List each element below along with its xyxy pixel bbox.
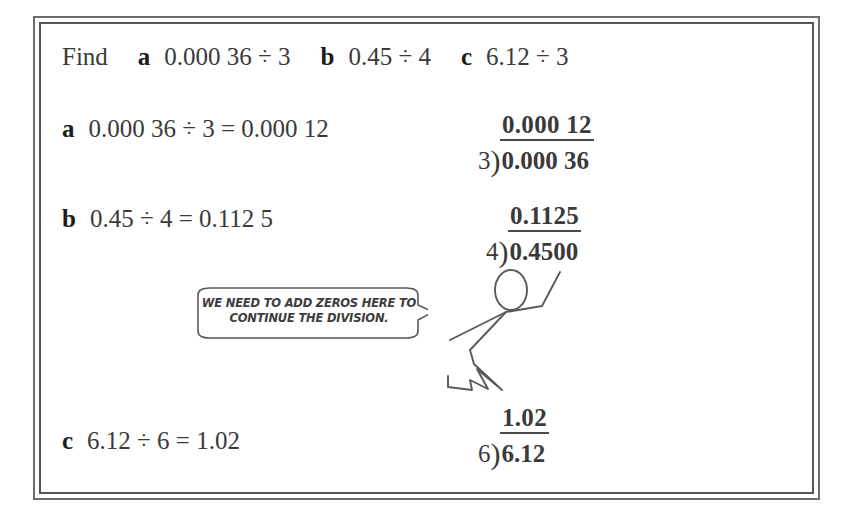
answer-c-letter: c [62,427,73,454]
answer-b-statement: 0.45 ÷ 4 = 0.112 5 [90,205,273,232]
long-division-c-divisor: 6 [478,440,491,467]
answer-row-b: b0.45 ÷ 4 = 0.112 5 [62,206,273,231]
stick-figure-torso [470,312,506,350]
stick-figure-illustration [430,268,610,413]
stick-figure-legs [448,350,502,390]
question-b-letter: b [321,43,335,70]
worksheet-page: Finda0.000 36 ÷ 3b0.45 ÷ 4c6.12 ÷ 3 a0.0… [0,0,860,526]
speech-bubble: WE NEED TO ADD ZEROS HERE TO CONTINUE TH… [196,287,428,339]
question-a-expression: 0.000 36 ÷ 3 [164,43,290,70]
long-division-c-dividend: 6.12 [502,440,546,467]
long-division-a-bracket-icon: ) [491,144,501,177]
long-division-b-body: 4)0.4500 [486,232,581,265]
stick-figure-left-arm [450,312,506,340]
long-division-a: 0.000 12 3)0.000 36 [478,112,594,174]
long-division-b-quotient: 0.1125 [486,203,581,230]
long-division-b-bracket-icon: ) [499,235,509,268]
long-division-a-quotient: 0.000 12 [478,112,594,139]
long-division-c: 1.02 6)6.12 [478,405,549,467]
answer-b-letter: b [62,205,76,232]
long-division-a-dividend: 0.000 36 [502,147,590,174]
long-division-c-body: 6)6.12 [478,434,549,467]
question-c-letter: c [461,43,472,70]
long-division-b-divisor: 4 [486,238,499,265]
question-c-expression: 6.12 ÷ 3 [486,43,568,70]
speech-bubble-line-1: WE NEED TO ADD ZEROS HERE TO [202,296,416,310]
long-division-b-dividend: 0.4500 [510,238,579,265]
answer-a-letter: a [62,115,75,142]
answer-row-a: a0.000 36 ÷ 3 = 0.000 12 [62,116,329,141]
long-division-b: 0.1125 4)0.4500 [486,203,581,265]
speech-bubble-line-2: CONTINUE THE DIVISION. [196,311,422,326]
stick-figure-right-arm [506,272,560,312]
question-a-letter: a [138,43,151,70]
question-b-expression: 0.45 ÷ 4 [349,43,431,70]
long-division-c-bracket-icon: ) [491,437,501,470]
answer-a-statement: 0.000 36 ÷ 3 = 0.000 12 [89,115,329,142]
speech-bubble-text: WE NEED TO ADD ZEROS HERE TO CONTINUE TH… [196,296,422,326]
answer-c-statement: 6.12 ÷ 6 = 1.02 [87,427,240,454]
long-division-a-divisor: 3 [478,147,491,174]
stick-figure-head-icon [495,270,527,310]
question-prompt-row: Finda0.000 36 ÷ 3b0.45 ÷ 4c6.12 ÷ 3 [62,44,569,69]
long-division-a-body: 3)0.000 36 [478,141,594,174]
answer-row-c: c6.12 ÷ 6 = 1.02 [62,428,240,453]
prompt-label: Find [62,43,108,70]
frame-inner-border [39,22,814,494]
